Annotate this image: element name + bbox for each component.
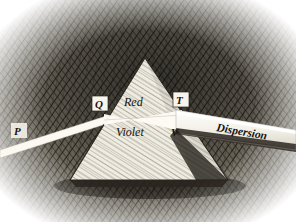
prism-base-edge bbox=[70, 180, 228, 187]
label-Q: Q bbox=[95, 98, 103, 110]
label-T-group: T bbox=[173, 92, 189, 107]
label-violet: Violet bbox=[116, 125, 144, 139]
prism-dispersion-figure: P Q T V Red Violet Dispersion bbox=[0, 0, 296, 222]
label-Q-group: Q bbox=[92, 96, 108, 111]
label-red: Red bbox=[123, 95, 144, 109]
label-P: P bbox=[14, 125, 21, 137]
label-P-group: P bbox=[11, 123, 27, 138]
diagram-canvas: P Q T V Red Violet Dispersion bbox=[0, 0, 296, 222]
